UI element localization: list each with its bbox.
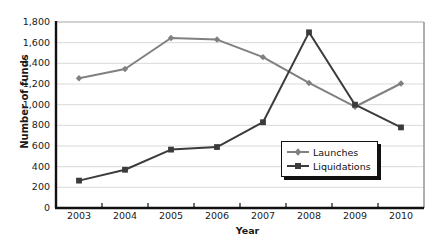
x-tick-label: 2008 — [286, 210, 332, 221]
x-tick-label: 2007 — [240, 210, 286, 221]
x-axis-title: Year — [55, 225, 440, 236]
x-tick-label: 2003 — [56, 210, 102, 221]
data-point-square — [352, 102, 358, 108]
legend-item-launches: Launches — [286, 145, 371, 159]
data-point-square — [398, 125, 404, 131]
data-point-square — [214, 144, 220, 150]
data-point-square — [306, 29, 312, 35]
x-tick-label: 2006 — [194, 210, 240, 221]
chart-legend: Launches Liquidations — [281, 141, 378, 177]
legend-label-launches: Launches — [313, 147, 358, 158]
x-tick-label: 2010 — [378, 210, 424, 221]
data-point-square — [76, 178, 82, 184]
data-point-square — [260, 119, 266, 125]
data-point-diamond — [214, 36, 220, 42]
line-chart: Number of funds 02004006008001,0001,2001… — [0, 0, 443, 240]
series-line-launches — [79, 38, 401, 107]
plot-area — [0, 0, 443, 240]
x-tick-label: 2005 — [148, 210, 194, 221]
x-tick-label: 2004 — [102, 210, 148, 221]
data-point-square — [122, 167, 128, 173]
legend-item-liquidations: Liquidations — [286, 159, 371, 173]
legend-marker-diamond-icon — [286, 146, 310, 158]
x-tick-label: 2009 — [332, 210, 378, 221]
legend-label-liquidations: Liquidations — [313, 161, 371, 172]
legend-marker-square-icon — [286, 160, 310, 172]
data-point-diamond — [76, 75, 82, 81]
data-point-square — [168, 147, 174, 153]
